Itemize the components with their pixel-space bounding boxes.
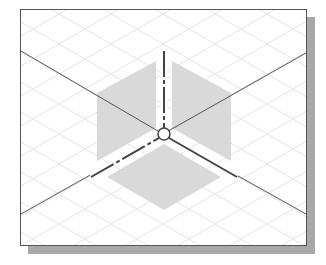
origin-point: [158, 128, 170, 140]
viewport-frame: [20, 9, 307, 246]
isometric-scene: [21, 10, 306, 245]
